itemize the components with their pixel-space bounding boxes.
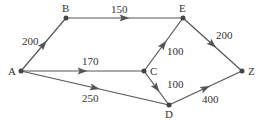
- edge-C-E: 100: [144, 18, 184, 71]
- node-label: Z: [248, 65, 255, 77]
- node-dot: [181, 16, 186, 21]
- node-B: B: [62, 2, 69, 21]
- edges: 200150170250100100200400: [21, 3, 242, 105]
- node-label: A: [8, 65, 16, 77]
- node-label: E: [179, 2, 186, 14]
- edge-A-B: 200: [21, 18, 66, 71]
- arrowhead-icon: [151, 82, 163, 94]
- node-Z: Z: [240, 65, 256, 77]
- node-label: B: [62, 2, 69, 14]
- edge-weight: 100: [167, 45, 184, 57]
- node-C: C: [142, 65, 158, 77]
- node-label: D: [165, 108, 173, 120]
- edge-weight: 170: [82, 55, 99, 67]
- edge-A-D: 250: [21, 71, 169, 105]
- edge-weight: 200: [216, 29, 233, 41]
- node-dot: [142, 69, 147, 74]
- node-dot: [240, 69, 245, 74]
- edge-weight: 150: [111, 3, 128, 15]
- edge-weight: 200: [22, 35, 39, 47]
- arrowhead-icon: [199, 83, 211, 94]
- node-label: C: [150, 65, 157, 77]
- node-D: D: [165, 103, 173, 121]
- edge-weight: 100: [167, 78, 184, 90]
- edge-weight: 400: [202, 93, 219, 105]
- edge-B-E: 150: [66, 3, 183, 22]
- node-A: A: [8, 65, 24, 77]
- edge-weight: 250: [82, 92, 99, 104]
- node-dot: [167, 103, 172, 108]
- node-dot: [19, 69, 24, 74]
- edge-A-C: 170: [21, 55, 144, 75]
- edge-E-Z: 200: [183, 18, 242, 71]
- node-dot: [64, 16, 69, 21]
- graph-diagram: 200150170250100100200400 ABECDZ: [0, 0, 259, 122]
